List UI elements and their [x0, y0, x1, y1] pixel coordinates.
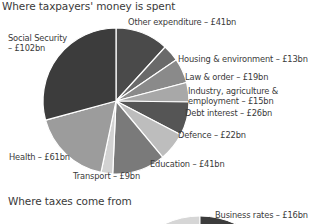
label-other-expenditure: Other expenditure – £41bn [128, 17, 236, 27]
label-debt-interest: Debt interest – £26bn [185, 108, 272, 118]
label-law-order: Law & order – £19bn [185, 72, 268, 82]
label-social-security-line2: – £102bn [8, 43, 45, 53]
label-social-security-line1: Social Security [8, 33, 67, 43]
label-health: Health – £61bn [9, 152, 70, 162]
label-industry-line1: Industry, agriculture & [188, 86, 278, 96]
label-industry-line2: employment – £15bn [188, 96, 274, 106]
label-transport: Transport – £9bn [73, 171, 140, 181]
label-business-rates: Business rates – £16bn [215, 210, 308, 220]
label-education: Education – £41bn [150, 159, 225, 169]
label-housing-environment: Housing & environment – £13bn [178, 54, 308, 64]
pie2-slice-other [135, 216, 200, 224]
chart-title-taxes: Where taxes come from [8, 195, 132, 207]
label-defence: Defence – £22bn [178, 130, 246, 140]
